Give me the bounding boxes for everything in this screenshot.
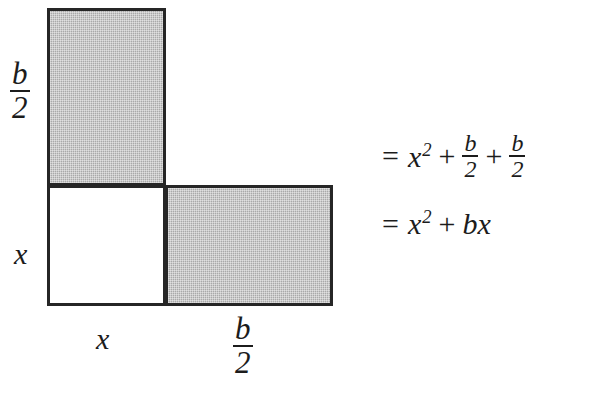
diagram-canvas: b 2 x x b 2 = x2 + b 2 + b 2 =	[0, 0, 610, 404]
fraction-numerator: b	[233, 313, 253, 345]
fraction-denominator: 2	[233, 345, 253, 379]
fraction-numerator: b	[462, 131, 478, 155]
fraction-denominator: 2	[10, 90, 30, 124]
label-height-x: x	[14, 239, 27, 269]
fraction-denominator: 2	[509, 155, 525, 181]
term-exponent: 2	[422, 206, 431, 227]
term-x-squared: x2	[408, 206, 432, 241]
region-bottom-left-square	[47, 185, 166, 306]
equation-line-2: = x2 + bx	[382, 206, 491, 241]
fraction-b-over-2-first: b 2	[462, 131, 478, 182]
label-width-x: x	[96, 324, 109, 354]
fraction-b-over-2: b 2	[233, 313, 253, 378]
fraction-denominator: 2	[462, 155, 478, 181]
term-exponent: 2	[422, 139, 431, 160]
region-top-rectangle	[47, 8, 166, 186]
plus-sign-1: +	[439, 207, 456, 241]
plus-sign-1: +	[439, 139, 456, 173]
label-width-b-over-2: b 2	[233, 313, 253, 378]
equation-line-1: = x2 + b 2 + b 2	[382, 131, 525, 182]
fraction-numerator: b	[509, 131, 525, 155]
term-x-squared: x2	[408, 139, 432, 174]
fraction-numerator: b	[10, 58, 30, 90]
equals-sign: =	[382, 207, 399, 241]
term-base: x	[408, 140, 421, 173]
term-bx: bx	[462, 207, 490, 241]
region-bottom-right-rectangle	[165, 185, 333, 306]
term-base: x	[408, 207, 421, 240]
fraction-b-over-2-second: b 2	[509, 131, 525, 182]
equals-sign: =	[382, 139, 399, 173]
label-height-b-over-2: b 2	[10, 58, 30, 123]
plus-sign-2: +	[485, 139, 502, 173]
fraction-b-over-2: b 2	[10, 58, 30, 123]
